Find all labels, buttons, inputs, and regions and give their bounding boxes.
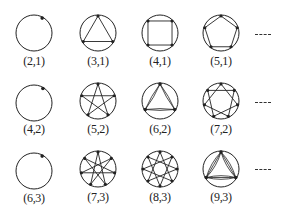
diagram-4-1: (4,1) — [130, 12, 190, 78]
diagram-3-1: (3,1) — [68, 12, 128, 78]
diagram-6-3: (6,3) — [4, 150, 64, 212]
star-polygon-7-2-graphic — [191, 80, 251, 124]
star-polygon-5-1-graphic — [191, 12, 251, 56]
star-polygon-3-1-graphic — [68, 12, 128, 56]
star-polygon-4-1-graphic — [130, 12, 190, 56]
diagram-label: (6,3) — [4, 192, 64, 204]
diagram-label: (9,3) — [191, 191, 251, 203]
star-polygon-8-3-graphic — [130, 148, 190, 192]
diagram-label: (5,1) — [191, 55, 251, 67]
star-polygon-figure: (2,1) (3,1) (4,1) (5,1) (4,2) (5,2) (6,2… — [0, 0, 283, 212]
continuation-dashes-row-1 — [255, 34, 271, 35]
diagram-5-1: (5,1) — [191, 12, 251, 78]
diagram-6-2: (6,2) — [130, 80, 190, 146]
diagram-7-2: (7,2) — [191, 80, 251, 146]
continuation-dashes-row-2 — [255, 102, 271, 103]
diagram-4-2: (4,2) — [4, 82, 64, 148]
diagram-2-1: (2,1) — [4, 12, 64, 78]
star-polygon-6-3-graphic — [4, 150, 64, 194]
diagram-label: (2,1) — [4, 55, 64, 67]
diagram-label: (7,2) — [191, 123, 251, 135]
diagram-8-3: (8,3) — [130, 148, 190, 212]
diagram-9-3: (9,3) — [191, 148, 251, 212]
star-polygon-7-3-graphic — [68, 148, 128, 192]
star-polygon-2-1-graphic — [4, 12, 64, 56]
star-polygon-5-2-graphic — [68, 80, 128, 124]
star-polygon-4-2-graphic — [4, 82, 64, 126]
diagram-label: (5,2) — [68, 123, 128, 135]
diagram-label: (3,1) — [68, 55, 128, 67]
diagram-label: (4,2) — [4, 123, 64, 135]
diagram-label: (4,1) — [130, 55, 190, 67]
diagram-label: (6,2) — [130, 123, 190, 135]
star-polygon-6-2-graphic — [130, 80, 190, 124]
diagram-5-2: (5,2) — [68, 80, 128, 146]
diagram-label: (8,3) — [130, 191, 190, 203]
diagram-7-3: (7,3) — [68, 148, 128, 212]
continuation-dashes-row-3 — [255, 169, 271, 170]
diagram-label: (7,3) — [68, 191, 128, 203]
star-polygon-9-3-graphic — [191, 148, 251, 192]
